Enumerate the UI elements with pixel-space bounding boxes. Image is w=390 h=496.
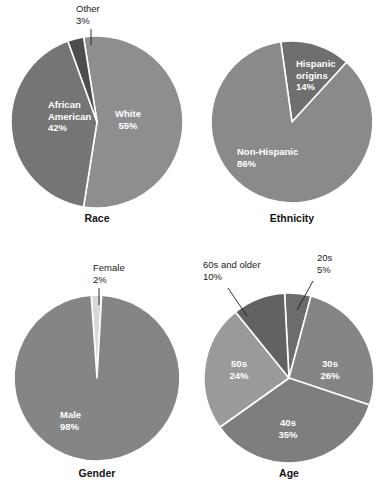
label-line: 50s [231, 358, 247, 369]
label-line: origins [296, 70, 328, 81]
pie-chart-race: White55%AfricanAmerican42%Other3%Race [0, 0, 195, 248]
slice-label-race-0: White55% [115, 108, 141, 131]
label-line: Female [93, 262, 125, 273]
label-line: 26% [320, 370, 340, 381]
slice-label-gender-0: Female2% [93, 262, 125, 285]
label-line: 30s [322, 358, 338, 369]
pie-chart-gender: Female2%Male98%Gender [0, 248, 195, 496]
label-line: 10% [203, 271, 223, 282]
label-line: 14% [296, 81, 316, 92]
label-line: 98% [60, 421, 80, 432]
label-line: Male [60, 409, 81, 420]
label-line: White [115, 108, 141, 119]
chart-title-age: Age [279, 467, 299, 479]
slice-label-age-4: 60s and older10% [203, 259, 261, 282]
label-line: Non-Hispanic [237, 146, 298, 157]
pie-chart-ethnicity: Hispanicorigins14%Non-Hispanic86%Ethnici… [195, 0, 390, 248]
label-line: Other [76, 3, 100, 14]
label-line: 40s [280, 417, 296, 428]
label-line: 35% [278, 429, 298, 440]
pie-canvas-age: 20s5%30s26%40s35%50s24%60s and older10%A… [195, 248, 390, 496]
label-line: American [48, 111, 91, 122]
label-line: 24% [229, 370, 249, 381]
label-line: 3% [76, 15, 90, 26]
label-line: 2% [93, 274, 107, 285]
slice-label-gender-1: Male98% [60, 409, 81, 432]
pie-canvas-race: White55%AfricanAmerican42%Other3%Race [0, 0, 195, 248]
slice-label-age-0: 20s5% [317, 252, 333, 275]
slice-label-race-2: Other3% [76, 3, 100, 26]
pie-chart-figure: White55%AfricanAmerican42%Other3%RaceHis… [0, 0, 390, 496]
label-line: 60s and older [203, 259, 261, 270]
pie-canvas-ethnicity: Hispanicorigins14%Non-Hispanic86%Ethnici… [195, 0, 390, 248]
label-line: 86% [237, 158, 257, 169]
chart-title-ethnicity: Ethnicity [270, 212, 314, 224]
slice-label-age-1: 30s26% [320, 358, 340, 381]
pie-canvas-gender: Female2%Male98%Gender [0, 248, 195, 496]
slice-group [14, 295, 180, 461]
label-line: 55% [118, 120, 138, 131]
label-line: African [48, 99, 81, 110]
slice-label-age-2: 40s35% [278, 417, 298, 440]
label-line: 42% [48, 122, 68, 133]
slice-group [211, 41, 373, 203]
chart-title-gender: Gender [79, 467, 116, 479]
chart-title-race: Race [84, 212, 109, 224]
label-line: 5% [317, 264, 331, 275]
pie-chart-age: 20s5%30s26%40s35%50s24%60s and older10%A… [195, 248, 390, 496]
label-line: 20s [317, 252, 333, 263]
slice-label-age-3: 50s24% [229, 358, 249, 381]
label-line: Hispanic [296, 58, 336, 69]
slice-group [11, 36, 183, 208]
